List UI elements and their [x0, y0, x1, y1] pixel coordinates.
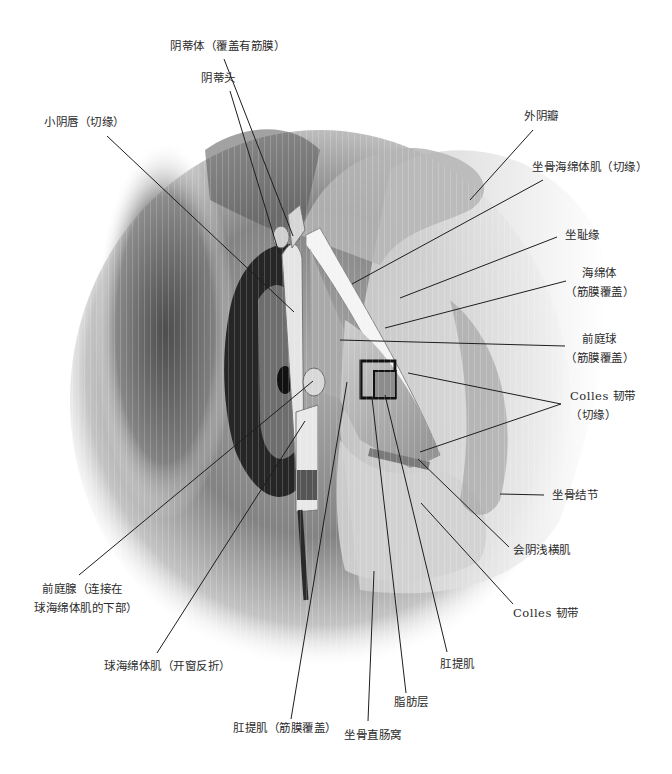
label-colles-cut-line2: （切缘）: [570, 406, 636, 425]
label-greater-vestibular-gland: 前庭腺（连接在 球海绵体肌的下部）: [34, 580, 138, 618]
label-bulbospongiosus: 球海绵体肌（开窗反折）: [104, 657, 231, 676]
label-colles-fascia: Colles 韧带: [513, 604, 579, 623]
label-colles-cut-line1: Colles 韧带: [570, 387, 636, 406]
label-levator-ani: 肛提肌: [440, 655, 475, 674]
label-clitoris-body: 阴蒂体（覆盖有筋膜）: [170, 37, 285, 56]
label-superficial-transverse-perineal: 会阴浅横肌: [513, 541, 571, 560]
label-labia-minora: 小阴唇（切缘）: [44, 113, 125, 132]
label-colles-cut: Colles 韧带 （切缘）: [570, 387, 636, 425]
label-vestibular-bulb-line1: 前庭球: [565, 330, 634, 349]
label-vestibular-bulb-line2: （筋膜覆盖）: [565, 349, 634, 368]
label-corpus-cavernosum-line2: （筋膜覆盖）: [565, 283, 634, 302]
label-labia-majora: 外阴瓣: [524, 107, 559, 126]
label-corpus-cavernosum: 海绵体 （筋膜覆盖）: [565, 264, 634, 302]
anatomy-figure: 阴蒂体（覆盖有筋膜） 阴蒂头 小阴唇（切缘） 外阴瓣 坐骨海绵体肌（切缘） 坐耻…: [0, 0, 672, 774]
label-vestibular-bulb: 前庭球 （筋膜覆盖）: [565, 330, 634, 368]
label-ischiocavernosus: 坐骨海绵体肌（切缘）: [532, 158, 647, 177]
label-corpus-cavernosum-line1: 海绵体: [565, 264, 634, 283]
label-ischiopubic-ramus: 坐耻缘: [565, 226, 600, 245]
label-greater-vestibular-gland-line1: 前庭腺（连接在: [34, 580, 138, 599]
label-greater-vestibular-gland-line2: 球海绵体肌的下部）: [34, 599, 138, 618]
label-levator-ani-covered: 肛提肌（筋膜覆盖）: [233, 719, 337, 738]
label-clitoris-glans: 阴蒂头: [201, 69, 236, 88]
label-ischiorectal-fossa: 坐骨直肠窝: [344, 726, 402, 745]
label-fat-layer: 脂肪层: [394, 693, 429, 712]
label-ischial-tuberosity: 坐骨结节: [552, 486, 598, 505]
